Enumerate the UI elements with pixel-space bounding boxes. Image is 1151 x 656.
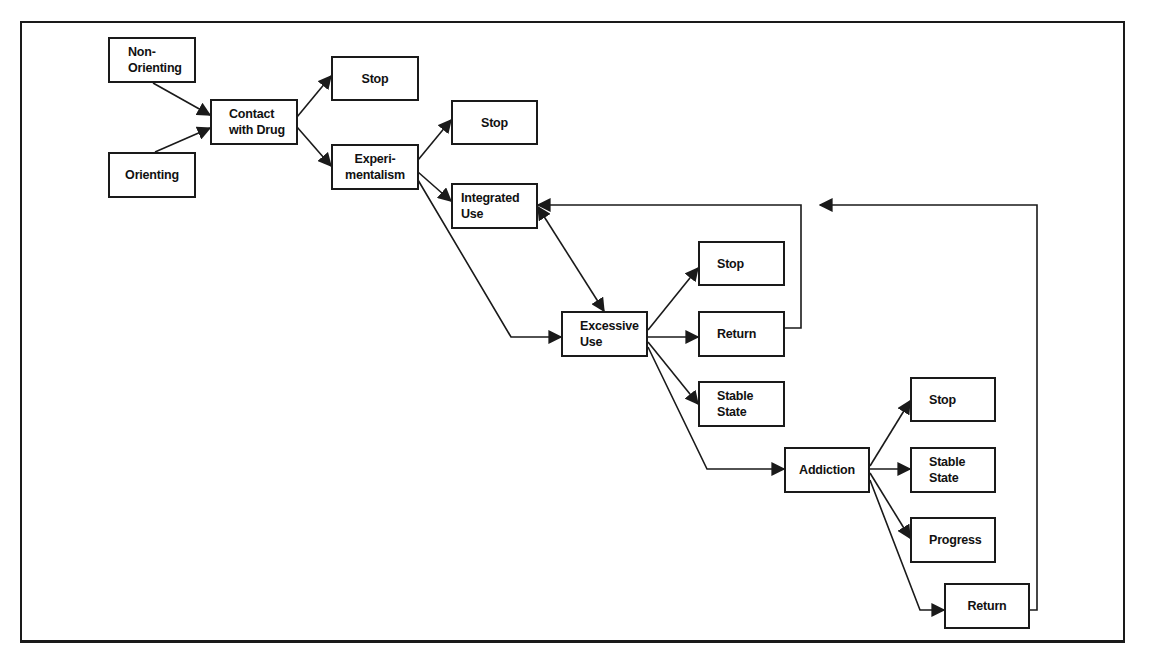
node-label: Stop bbox=[362, 71, 389, 87]
node-label: Orienting bbox=[125, 167, 179, 183]
node-label: Excessive Use bbox=[580, 318, 639, 350]
node-label: Integrated Use bbox=[461, 190, 519, 222]
node-orienting: Orienting bbox=[108, 152, 196, 198]
edge-contact-stop1 bbox=[297, 76, 331, 117]
node-label: Non- Orienting bbox=[128, 44, 182, 76]
edge-contact-experimentalism bbox=[297, 127, 331, 166]
node-return-1: Return bbox=[698, 311, 785, 357]
node-excessive-use: Excessive Use bbox=[561, 311, 648, 357]
node-label: Stop bbox=[929, 392, 956, 408]
node-stop-4: Stop bbox=[910, 377, 996, 422]
node-label: Return bbox=[967, 598, 1006, 614]
node-stop-3: Stop bbox=[698, 241, 785, 286]
node-label: Addiction bbox=[799, 462, 855, 478]
node-stop-2: Stop bbox=[451, 100, 538, 145]
diagram-canvas: Non- Orienting Orienting Contact with Dr… bbox=[0, 0, 1151, 656]
edge-excessive-stop3 bbox=[648, 268, 698, 330]
node-stop-1: Stop bbox=[331, 56, 419, 101]
edge-nonorienting-contact bbox=[153, 83, 210, 115]
node-label: Stop bbox=[481, 115, 508, 131]
node-return-2: Return bbox=[944, 583, 1030, 629]
node-integrated-use: Integrated Use bbox=[451, 183, 538, 229]
node-label: Experi- mentalism bbox=[345, 151, 405, 183]
edge-experimentalism-integrated bbox=[418, 172, 451, 201]
node-progress: Progress bbox=[910, 517, 996, 563]
edge-addiction-stop4 bbox=[870, 401, 910, 466]
node-label: Stable State bbox=[929, 454, 965, 486]
node-experimentalism: Experi- mentalism bbox=[331, 144, 419, 190]
edge-integrated-excessive bbox=[538, 207, 604, 311]
edge-experimentalism-stop2 bbox=[418, 120, 451, 160]
node-label: Contact with Drug bbox=[229, 106, 285, 138]
node-label: Return bbox=[717, 326, 756, 342]
node-contact-with-drug: Contact with Drug bbox=[210, 99, 298, 145]
node-label: Stop bbox=[717, 256, 744, 272]
node-label: Stable State bbox=[717, 388, 753, 420]
edge-orienting-contact bbox=[155, 128, 210, 152]
node-stable-state-1: Stable State bbox=[698, 381, 785, 427]
edge-addiction-progress bbox=[870, 473, 910, 538]
node-addiction: Addiction bbox=[784, 447, 870, 493]
node-label: Progress bbox=[929, 532, 982, 548]
edge-excessive-stable1 bbox=[648, 342, 698, 404]
node-stable-state-2: Stable State bbox=[910, 447, 996, 493]
node-non-orienting: Non- Orienting bbox=[108, 37, 196, 83]
